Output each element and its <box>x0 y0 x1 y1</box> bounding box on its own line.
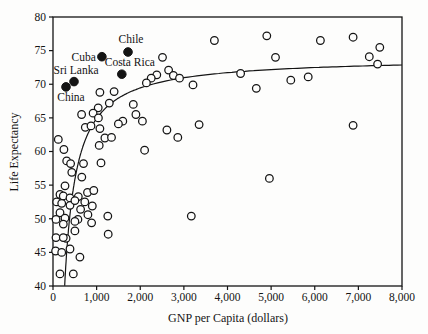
data-point <box>349 122 357 130</box>
life-expectancy-gnp-figure: 40455055606570758001,0002,0003,0004,0005… <box>0 0 428 334</box>
highlight-point <box>124 48 133 57</box>
data-point <box>304 73 312 81</box>
data-point <box>189 81 197 89</box>
data-point <box>76 253 84 261</box>
data-point <box>106 99 114 107</box>
data-point <box>104 230 112 238</box>
data-point <box>130 101 138 109</box>
data-point <box>132 111 140 119</box>
y-tick-label: 40 <box>35 280 47 292</box>
data-point <box>97 159 105 167</box>
data-point <box>58 249 66 257</box>
x-tick-label: 8,000 <box>389 291 415 304</box>
x-axis-title: GNP per Capita (dollars) <box>168 311 288 326</box>
data-point <box>272 54 280 62</box>
data-point <box>78 111 86 119</box>
data-point <box>376 44 384 52</box>
y-axis-title: Life Expectancy <box>7 113 22 192</box>
data-point <box>139 117 147 125</box>
x-tick-label: 7,000 <box>345 291 371 304</box>
data-point <box>317 37 325 45</box>
fit-curve <box>65 65 402 286</box>
x-tick-label: 2,000 <box>127 291 153 304</box>
country-label: Cuba <box>72 51 96 63</box>
data-point <box>71 218 79 226</box>
data-point <box>60 220 68 228</box>
data-point <box>141 146 149 154</box>
y-tick-label: 80 <box>35 11 47 23</box>
country-label: China <box>57 91 84 103</box>
data-point <box>195 121 203 129</box>
data-point <box>55 136 63 144</box>
data-point <box>95 142 103 150</box>
country-label: Chile <box>119 33 144 45</box>
data-point <box>287 76 295 84</box>
data-point <box>66 245 74 253</box>
data-point <box>68 169 76 177</box>
x-tick-label: 5,000 <box>258 291 284 304</box>
data-point <box>110 88 118 96</box>
data-point <box>115 120 123 128</box>
data-point <box>252 85 260 93</box>
data-point <box>67 160 75 168</box>
data-point <box>60 234 68 242</box>
data-point <box>263 32 271 40</box>
highlight-point <box>70 77 79 86</box>
data-point <box>108 134 116 142</box>
data-point <box>60 146 68 154</box>
data-point <box>237 70 245 78</box>
y-tick-label: 70 <box>35 78 47 90</box>
y-tick-label: 55 <box>35 179 47 191</box>
data-point <box>52 216 60 224</box>
scatter-plot-canvas: 40455055606570758001,0002,0003,0004,0005… <box>0 0 428 334</box>
data-point <box>174 134 182 142</box>
data-point <box>56 270 64 278</box>
data-point <box>78 173 86 181</box>
data-point <box>266 175 274 183</box>
data-point <box>211 37 219 45</box>
x-tick-label: 6,000 <box>302 291 328 304</box>
data-point <box>96 125 104 133</box>
y-tick-label: 60 <box>35 145 47 157</box>
data-point <box>71 227 79 235</box>
country-label: Sri Lanka <box>53 64 98 76</box>
data-point <box>77 206 85 214</box>
y-tick-label: 65 <box>35 112 47 124</box>
data-point <box>71 197 79 205</box>
data-point <box>89 202 97 210</box>
data-point <box>188 212 196 220</box>
data-point <box>349 33 357 41</box>
data-point <box>61 182 69 190</box>
data-point <box>80 160 88 168</box>
data-point <box>159 54 167 62</box>
y-tick-label: 50 <box>35 213 47 225</box>
data-point <box>366 53 374 61</box>
data-point <box>143 79 151 87</box>
y-tick-label: 45 <box>35 246 47 258</box>
highlight-point <box>118 70 127 79</box>
data-point <box>81 198 89 206</box>
data-point <box>163 126 171 134</box>
x-tick-label: 4,000 <box>215 291 241 304</box>
y-tick-label: 75 <box>35 44 47 56</box>
data-point <box>84 211 92 219</box>
data-point <box>58 200 66 208</box>
data-point <box>176 74 184 82</box>
data-point <box>52 234 60 242</box>
data-point <box>96 89 104 97</box>
data-point <box>70 270 78 278</box>
data-point <box>104 212 112 220</box>
data-point <box>90 187 98 195</box>
x-tick-label: 0 <box>50 291 56 303</box>
country-label: Costa Rica <box>105 56 155 68</box>
data-point <box>95 114 103 122</box>
data-point <box>374 60 382 68</box>
x-tick-label: 1,000 <box>84 291 110 304</box>
data-point <box>87 122 95 130</box>
data-point <box>88 219 96 227</box>
x-tick-label: 3,000 <box>171 291 197 304</box>
